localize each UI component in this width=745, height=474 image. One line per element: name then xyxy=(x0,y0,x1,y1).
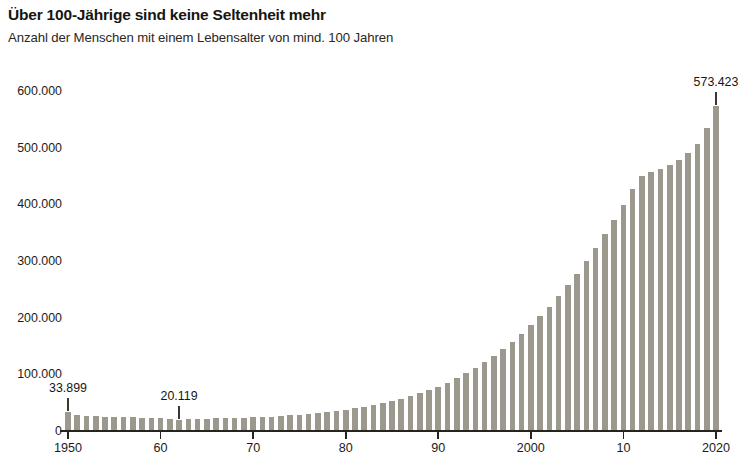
bar xyxy=(426,390,432,431)
bar xyxy=(648,172,654,431)
y-axis-tick-label: 0 xyxy=(0,424,62,438)
bar xyxy=(111,417,117,431)
bar xyxy=(695,144,701,431)
bar xyxy=(473,368,479,431)
bar xyxy=(630,189,636,431)
bar xyxy=(491,356,497,431)
y-axis-tick-label: 300.000 xyxy=(0,254,62,268)
bar xyxy=(380,403,386,431)
bar xyxy=(519,334,525,431)
y-axis-tick-label: 600.000 xyxy=(0,84,62,98)
bar xyxy=(389,401,395,431)
bar xyxy=(417,393,423,431)
bar xyxy=(74,415,80,431)
bar xyxy=(463,373,469,431)
bar xyxy=(704,128,710,431)
bar xyxy=(250,417,256,431)
x-axis-tick xyxy=(160,431,162,439)
bar xyxy=(297,415,303,431)
bar xyxy=(352,408,358,431)
bar xyxy=(260,417,266,431)
x-axis-tick xyxy=(530,431,532,439)
x-axis-tick-label: 2000 xyxy=(517,441,545,455)
bar xyxy=(685,153,691,431)
bar xyxy=(278,416,284,431)
bar xyxy=(713,106,719,431)
bar xyxy=(602,234,608,431)
bar xyxy=(84,416,90,431)
x-axis-tick-label: 90 xyxy=(431,441,445,455)
y-axis-tick-label: 200.000 xyxy=(0,311,62,325)
bar xyxy=(315,413,321,431)
bar xyxy=(343,410,349,431)
bar xyxy=(658,169,664,431)
bar xyxy=(482,362,488,431)
bar xyxy=(371,405,377,431)
bar xyxy=(65,412,71,431)
bar xyxy=(556,296,562,431)
bar xyxy=(269,417,275,431)
bar xyxy=(306,414,312,431)
x-axis-tick xyxy=(715,431,717,439)
x-axis-tick-label: 60 xyxy=(154,441,168,455)
bar xyxy=(574,274,580,431)
bar xyxy=(676,160,682,431)
bar xyxy=(139,418,145,431)
y-axis-tick-label: 500.000 xyxy=(0,141,62,155)
bar xyxy=(454,378,460,431)
bar xyxy=(102,417,108,431)
bar xyxy=(565,285,571,431)
y-axis-tick-label: 100.000 xyxy=(0,367,62,381)
chart-container: Über 100-Jährige sind keine Seltenheit m… xyxy=(0,0,745,474)
x-axis-tick-label: 2020 xyxy=(702,441,730,455)
bar xyxy=(639,176,645,431)
annotation-value-label: 20.119 xyxy=(161,389,198,403)
annotation-value-label: 33.899 xyxy=(49,381,87,395)
bar xyxy=(584,261,590,431)
x-axis-tick xyxy=(345,431,347,439)
bar xyxy=(361,407,367,431)
annotation-value-label: 573.423 xyxy=(694,75,739,89)
bar xyxy=(621,205,627,431)
annotation-leader-line xyxy=(67,398,68,411)
annotation-leader-line xyxy=(178,406,179,419)
bar xyxy=(287,415,293,431)
bar xyxy=(445,383,451,431)
y-axis-tick-label: 400.000 xyxy=(0,197,62,211)
bar xyxy=(510,342,516,431)
bar xyxy=(500,349,506,431)
x-axis-tick xyxy=(623,431,625,439)
x-axis-tick-label: 10 xyxy=(616,441,630,455)
x-axis-tick-label: 1950 xyxy=(54,441,82,455)
bar xyxy=(121,417,127,431)
x-axis-tick xyxy=(252,431,254,439)
bar xyxy=(324,412,330,431)
bar xyxy=(528,325,534,431)
bar xyxy=(593,248,599,431)
bar xyxy=(611,220,617,431)
bars-layer xyxy=(0,0,745,431)
bar xyxy=(408,396,414,431)
x-axis-tick xyxy=(437,431,439,439)
x-axis-tick xyxy=(67,431,69,439)
annotation-leader-line xyxy=(715,92,716,105)
x-axis-tick-label: 80 xyxy=(339,441,353,455)
bar xyxy=(334,411,340,431)
bar xyxy=(537,316,543,431)
bar xyxy=(130,417,136,431)
bar xyxy=(93,416,99,431)
plot-area: 0100.000200.000300.000400.000500.000600.… xyxy=(0,0,745,474)
bar xyxy=(435,387,441,431)
bar xyxy=(398,399,404,431)
bar xyxy=(547,307,553,431)
x-axis-tick-label: 70 xyxy=(246,441,260,455)
bar xyxy=(667,165,673,431)
